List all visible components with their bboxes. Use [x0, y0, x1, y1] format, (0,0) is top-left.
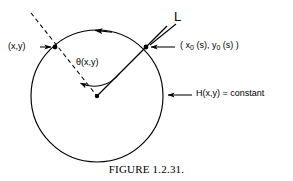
point-xy-dot: [53, 45, 58, 50]
angle-arc-theta: [81, 74, 120, 87]
label-point-xy: (x,y): [8, 42, 26, 51]
figure-caption: FIGURE 1.2.31.: [0, 163, 293, 175]
dashed-reference-line: [31, 13, 97, 96]
figure-container: L (x,y) ( x0 (s), y0 (s) ) θ(x,y) H(x,y)…: [0, 0, 293, 181]
point-param-dot: [144, 45, 149, 50]
label-level-set: H(x,y) = constant: [196, 89, 264, 98]
label-point-param-mid: (s), y: [194, 40, 217, 50]
center-point-dot: [95, 94, 99, 98]
label-line-L: L: [174, 10, 181, 23]
label-point-param-prefix: ( x: [180, 40, 190, 50]
line-L: [97, 26, 167, 96]
label-point-param-suffix: (s) ): [220, 40, 239, 50]
leader-line-L: [150, 24, 176, 45]
label-angle-theta: θ(x,y): [76, 58, 99, 67]
label-point-param: ( x0 (s), y0 (s) ): [180, 41, 239, 51]
